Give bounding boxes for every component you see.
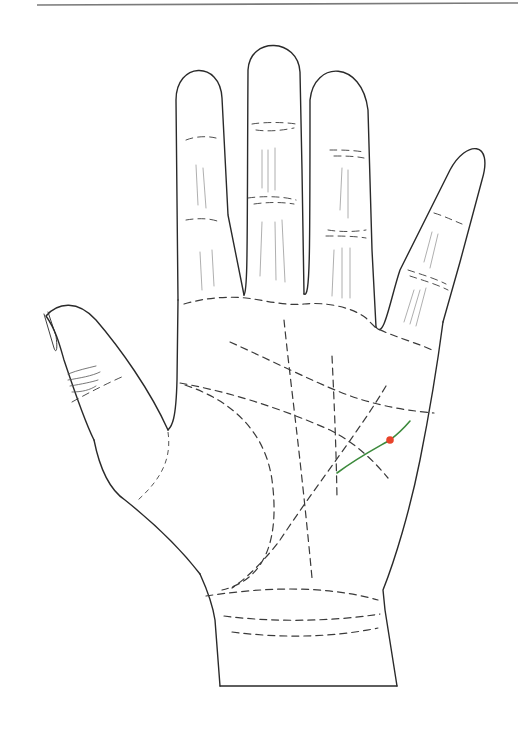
little-crease-mid-b — [410, 276, 448, 290]
middle-crease-top-b — [256, 128, 294, 131]
little-crease-top — [434, 213, 462, 224]
wrist-left-edge — [200, 574, 220, 686]
index-crease-mid — [186, 219, 220, 222]
palm-diagram — [0, 0, 518, 732]
ring-crease-top-a — [330, 150, 364, 152]
health-line — [232, 386, 386, 588]
ring-crease-top-b — [334, 156, 364, 158]
finger-creases — [186, 123, 462, 327]
highlighted-green-line — [337, 421, 410, 473]
thumb-outline — [46, 305, 168, 440]
heart-line — [230, 342, 434, 413]
venus-mount-line — [138, 432, 169, 500]
red-marker-dot — [386, 436, 394, 444]
life-line — [185, 385, 274, 590]
palm-right-edge — [383, 322, 443, 686]
sun-line — [332, 356, 337, 498]
middle-finger-outline — [244, 45, 304, 295]
middle-crease-top-a — [252, 123, 296, 125]
thumb-inner — [168, 300, 178, 430]
ring-finger-outline — [304, 71, 376, 327]
thumb-nail — [44, 312, 57, 351]
bracelet-line-1 — [206, 589, 378, 600]
hand-outline — [44, 45, 485, 686]
ring-crease-mid-a — [328, 230, 366, 232]
fate-line — [284, 320, 312, 578]
top-rule — [37, 3, 518, 5]
bracelet-line-2 — [224, 614, 380, 620]
thumb-base — [94, 440, 200, 574]
ring-crease-mid-b — [326, 236, 366, 238]
palm-lines — [138, 320, 434, 636]
bracelet-line-3 — [232, 628, 378, 636]
middle-crease-mid-a — [248, 197, 296, 200]
finger-base-crease — [184, 297, 432, 350]
middle-crease-mid-b — [254, 203, 294, 205]
index-crease-top — [186, 137, 216, 140]
index-finger-outline — [176, 70, 244, 300]
